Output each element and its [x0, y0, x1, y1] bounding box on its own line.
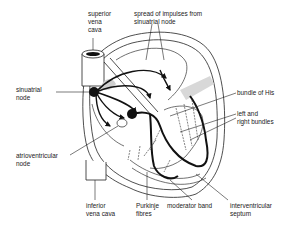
sinuatrial-node-dot: [89, 87, 99, 97]
superior-vena-cava-tube: [82, 50, 104, 86]
label-superior-vena-cava: superior vena cava: [88, 10, 111, 34]
label-sinuatrial-node: sinuatrial node: [16, 86, 42, 102]
label-left-right-bundles: left and right bundles: [237, 110, 274, 126]
heart-conduction-diagram: superior vena cava spread of impulses fr…: [0, 0, 296, 226]
label-purkinje-fibres: Purkinje fibres: [136, 202, 159, 218]
inferior-vena-cava-tube: [86, 160, 106, 180]
av-node-outline: [117, 119, 127, 127]
label-moderator-band: moderator band: [167, 202, 212, 210]
label-atrioventricular-node: atrioventricular node: [16, 152, 58, 168]
label-bundle-of-his: bundle of His: [237, 89, 274, 97]
label-inferior-vena-cava: inferior vena cava: [86, 202, 115, 218]
label-interventricular-septum: interventricular septum: [230, 202, 272, 218]
septum-shading: [180, 76, 214, 100]
label-spread-of-impulses: spread of impulses from sinuatrial node: [134, 10, 202, 26]
